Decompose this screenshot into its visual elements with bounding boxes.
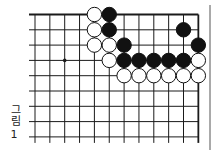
black-stone [147, 53, 161, 67]
go-board-diagram [0, 0, 217, 155]
black-stone [191, 38, 205, 52]
black-stone [176, 23, 190, 37]
white-stone [87, 23, 101, 37]
black-stone [161, 53, 175, 67]
white-stone [191, 69, 205, 83]
white-stone [132, 69, 146, 83]
white-stone [161, 69, 175, 83]
white-stone [102, 53, 116, 67]
white-stone [102, 38, 116, 52]
figure-caption: 그림 [8, 104, 20, 126]
black-stone [132, 53, 146, 67]
black-stone [102, 23, 116, 37]
black-stone [117, 53, 131, 67]
white-stone [176, 69, 190, 83]
black-stone [176, 53, 190, 67]
white-stone [147, 69, 161, 83]
white-stone [117, 69, 131, 83]
figure-number: 1 [8, 128, 20, 141]
white-stone [87, 7, 101, 21]
black-stone [102, 7, 116, 21]
white-stone [191, 53, 205, 67]
black-stone [117, 38, 131, 52]
star-point [63, 59, 67, 63]
white-stone [87, 38, 101, 52]
